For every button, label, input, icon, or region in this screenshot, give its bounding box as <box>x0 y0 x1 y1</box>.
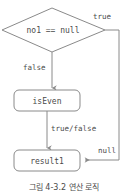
flowchart-diagram: no1 == null true false isEven true/false… <box>0 0 128 192</box>
edge-label-null: null <box>98 146 116 155</box>
figure-caption: 그림 4-3.2 연산 로직 <box>0 183 128 192</box>
edge-label-true: true <box>93 12 112 21</box>
result-node-label: result1 <box>30 157 64 166</box>
edge-label-false: false <box>23 63 46 72</box>
process-node-label: isEven <box>33 97 62 106</box>
edge-label-true-false: true/false <box>51 124 97 133</box>
edge-true-branch <box>85 30 119 160</box>
diagram-canvas: no1 == null true false isEven true/false… <box>0 0 128 192</box>
decision-node-label: no1 == null <box>27 26 80 35</box>
